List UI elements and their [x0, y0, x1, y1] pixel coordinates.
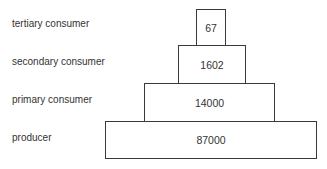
level-box-producer: 87000: [105, 121, 317, 159]
level-value-tertiary-consumer: 67: [205, 22, 217, 34]
level-label-tertiary-consumer: tertiary consumer: [12, 18, 89, 30]
level-box-secondary-consumer: 1602: [178, 45, 246, 84]
level-label-producer: producer: [12, 132, 51, 144]
level-value-secondary-consumer: 1602: [200, 59, 223, 71]
level-value-producer: 87000: [196, 134, 225, 146]
level-box-primary-consumer: 14000: [144, 83, 275, 122]
level-label-secondary-consumer: secondary consumer: [12, 56, 105, 68]
level-value-primary-consumer: 14000: [195, 97, 224, 109]
level-box-tertiary-consumer: 67: [196, 9, 226, 46]
level-label-primary-consumer: primary consumer: [12, 94, 92, 106]
